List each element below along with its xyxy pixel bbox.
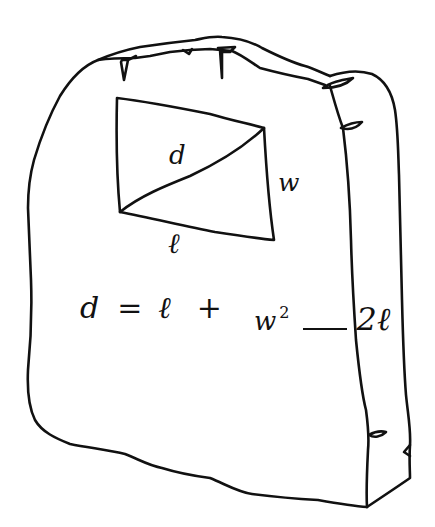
numerator-exponent: 2 — [279, 303, 289, 322]
chisel-mark-1 — [121, 56, 136, 80]
width-label: w — [278, 170, 299, 195]
formula-term-length: ℓ — [158, 290, 171, 325]
length-label: ℓ — [168, 230, 180, 258]
slab-front-outline — [28, 37, 367, 507]
rectangle-diagonal — [120, 128, 264, 212]
chisel-mark-right-1 — [323, 78, 353, 88]
fraction-denominator: 2ℓ — [357, 296, 391, 338]
formula-plus: + — [197, 290, 222, 325]
slab-top-edge — [98, 49, 325, 85]
fraction-bar — [303, 328, 347, 330]
chisel-mark-right-2 — [341, 122, 362, 129]
inscribed-rectangle — [117, 98, 274, 240]
slab-drawing — [0, 0, 435, 527]
fraction-numerator: w2 — [250, 303, 293, 338]
numerator-variable: w — [254, 306, 276, 336]
diagonal-formula: d = ℓ + w2 2ℓ — [80, 286, 390, 328]
diagonal-label: d — [169, 142, 186, 168]
chisel-mark-right-3 — [369, 431, 386, 436]
formula-equals: = — [117, 290, 142, 325]
formula-lhs: d — [80, 290, 99, 325]
formula-fraction: w2 2ℓ — [250, 296, 390, 338]
